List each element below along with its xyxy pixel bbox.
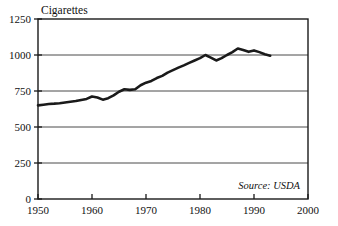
chart-figure: 025050075010001250 195019601970198019902… [0, 0, 338, 226]
x-tick-label-1960: 1960 [81, 204, 104, 216]
y-tick-label-250: 250 [15, 157, 32, 169]
x-tick-label-1990: 1990 [243, 204, 266, 216]
x-tick-label-1970: 1970 [135, 204, 158, 216]
plot-area [34, 19, 308, 199]
y-tick-label-1250: 1250 [9, 13, 32, 25]
plot-background [38, 19, 308, 199]
x-tick-label-1950: 1950 [27, 204, 50, 216]
cigarettes-line-chart: 025050075010001250 195019601970198019902… [0, 0, 338, 226]
chart-title: Cigarettes [41, 4, 88, 17]
x-tick-label-1980: 1980 [189, 204, 212, 216]
y-tick-label-750: 750 [15, 85, 32, 97]
source-annotation: Source: USDA [238, 180, 300, 191]
x-tick-label-2000: 2000 [297, 204, 320, 216]
y-tick-label-500: 500 [15, 121, 32, 133]
y-tick-label-1000: 1000 [9, 49, 32, 61]
